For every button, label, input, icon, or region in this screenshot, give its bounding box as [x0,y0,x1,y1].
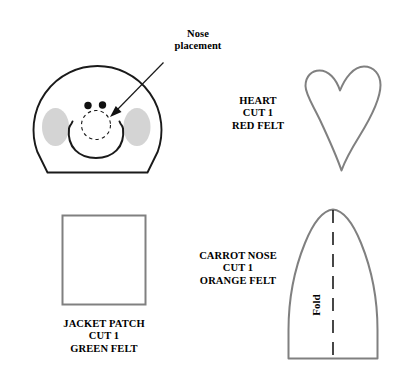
right-cheek-shape [124,108,151,146]
fold-label: Fold [310,294,322,315]
left-cheek-shape [42,108,69,146]
jacket-patch-piece-label: JACKET PATCH CUT 1 GREEN FELT [46,318,162,355]
left-eye-shape [84,102,91,109]
nose-placement-label-text: Nose placement [152,28,244,53]
heart-piece-label: HEART CUT 1 RED FELT [212,95,304,132]
carrot-nose-piece-label: CARROT NOSE CUT 1 ORANGE FELT [186,250,290,287]
heart-shape [306,67,381,171]
right-eye-shape [99,101,106,108]
jacket-patch-shape [63,216,146,305]
nose-placement-circle-shape [82,111,111,140]
pattern-sheet: Fold Nose placement HEART CUT 1 RED FELT… [0,0,399,382]
